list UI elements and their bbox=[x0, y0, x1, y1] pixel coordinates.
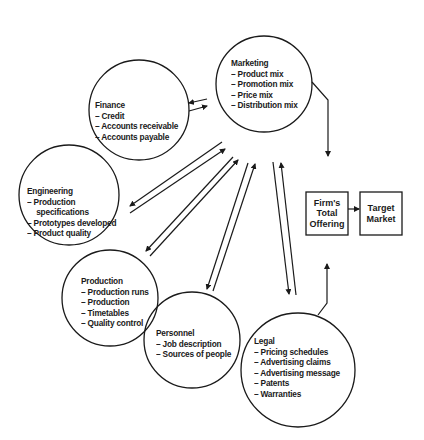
marketing-item: Price mix bbox=[231, 90, 298, 101]
marketing-to-production-arrow bbox=[146, 157, 233, 251]
offering-line: Total bbox=[317, 208, 338, 219]
marketing-to-offering-arrow bbox=[312, 82, 328, 156]
offering-line: Firm's bbox=[314, 198, 341, 209]
production-to-marketing-arrow bbox=[150, 160, 238, 256]
production-node: Production Production runs Production Ti… bbox=[81, 276, 149, 329]
offering-line: Offering bbox=[310, 219, 345, 230]
production-item: Production bbox=[81, 297, 149, 308]
marketing-node: Marketing Product mix Promotion mix Pric… bbox=[231, 58, 298, 111]
personnel-title: Personnel bbox=[156, 328, 231, 339]
production-item: Production runs bbox=[81, 287, 149, 298]
legal-item: Patents bbox=[254, 378, 340, 389]
legal-title: Legal bbox=[254, 336, 340, 347]
legal-item: Warranties bbox=[254, 389, 340, 400]
legal-to-marketing-arrow bbox=[281, 163, 296, 295]
engineering-title: Engineering bbox=[27, 186, 116, 197]
target-line: Target bbox=[368, 203, 395, 214]
marketing-item: Promotion mix bbox=[231, 79, 298, 90]
production-title: Production bbox=[81, 276, 149, 287]
target-label: Target Market bbox=[360, 192, 402, 235]
finance-item: Accounts receivable bbox=[95, 121, 178, 132]
legal-node: Legal Pricing schedules Advertising clai… bbox=[254, 336, 340, 399]
marketing-item: Distribution mix bbox=[231, 100, 298, 111]
legal-item: Pricing schedules bbox=[254, 347, 340, 358]
marketing-to-personnel-arrow bbox=[207, 163, 248, 289]
engineering-item-continuation: specifications bbox=[27, 207, 116, 218]
marketing-title: Marketing bbox=[231, 58, 298, 69]
finance-title: Finance bbox=[95, 100, 178, 111]
finance-item: Credit bbox=[95, 111, 178, 122]
engineering-item: Prototypes developed bbox=[27, 218, 116, 229]
legal-to-offering-arrow bbox=[318, 264, 327, 315]
marketing-to-legal-arrow bbox=[273, 162, 289, 294]
marketing-to-engineering-arrow bbox=[130, 142, 222, 206]
finance-node: Finance Credit Accounts receivable Accou… bbox=[95, 100, 178, 142]
legal-item: Advertising claims bbox=[254, 357, 340, 368]
finance-item: Accounts payable bbox=[95, 132, 178, 143]
marketing-item: Product mix bbox=[231, 69, 298, 80]
legal-item: Advertising message bbox=[254, 368, 340, 379]
production-item: Timetables bbox=[81, 308, 149, 319]
target-line: Market bbox=[366, 214, 395, 225]
engineering-node: Engineering Production specifications Pr… bbox=[27, 186, 116, 239]
personnel-item: Sources of people bbox=[156, 349, 231, 360]
personnel-item: Job description bbox=[156, 339, 231, 350]
engineering-item: Product quality bbox=[27, 228, 116, 239]
production-item: Quality control bbox=[81, 318, 149, 329]
personnel-to-marketing-arrow bbox=[213, 164, 255, 291]
offering-label: Firm's Total Offering bbox=[306, 192, 348, 235]
marketing-to-finance-arrow bbox=[189, 99, 207, 103]
finance-to-marketing-arrow bbox=[189, 106, 207, 111]
personnel-node: Personnel Job description Sources of peo… bbox=[156, 328, 231, 360]
engineering-item: Production bbox=[27, 197, 116, 208]
